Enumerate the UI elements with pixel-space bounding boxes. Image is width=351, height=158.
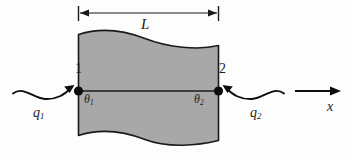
dimension-label-L: L (141, 17, 149, 32)
temperature-label-theta1: θ1 (84, 93, 94, 105)
node-dot-1 (74, 86, 83, 95)
flux-label-q2: q2 (250, 106, 261, 120)
node-dot-2 (214, 86, 223, 95)
q-subscript-1: 1 (40, 111, 44, 121)
theta-subscript-2: 2 (200, 98, 204, 107)
node-label-1: 1 (75, 62, 82, 76)
q-symbol-2: q (250, 105, 257, 120)
node-label-2: 2 (219, 62, 226, 76)
element-body (79, 30, 219, 145)
flux-label-q1: q1 (33, 106, 44, 120)
temperature-label-theta2: θ2 (194, 93, 204, 105)
q-symbol-1: q (33, 105, 40, 120)
q-subscript-2: 2 (257, 111, 261, 121)
heat-conduction-element-diagram (0, 0, 351, 158)
theta-subscript-1: 1 (90, 98, 94, 107)
axis-label-x: x (327, 100, 333, 114)
